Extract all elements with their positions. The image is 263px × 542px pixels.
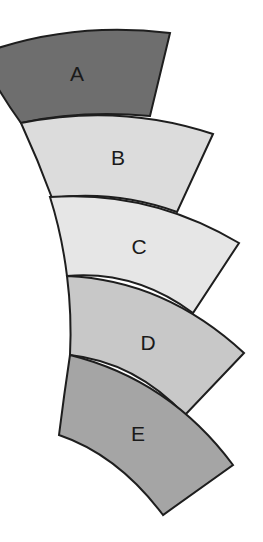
segmented-arc-diagram: A B C D E [0,0,263,542]
segment-b-label: B [111,146,125,169]
segment-d-label: D [140,331,155,354]
segment-a: A [0,30,170,123]
segment-e-label: E [131,422,145,445]
segment-a-label: A [70,62,84,85]
segment-c-label: C [131,235,146,258]
segment-a-shape [0,30,170,123]
